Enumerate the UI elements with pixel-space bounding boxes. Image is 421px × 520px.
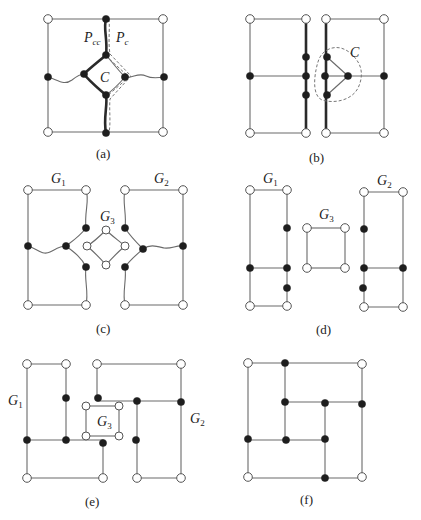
label-g3: G3: [100, 209, 115, 226]
caption-b: (b): [309, 150, 324, 165]
label-g3: G3: [97, 414, 112, 431]
filled-vertex: [321, 72, 328, 79]
open-vertex: [380, 129, 389, 138]
filled-vertex: [302, 72, 309, 79]
label-g3: G3: [319, 207, 334, 224]
filled-vertex: [246, 72, 253, 79]
open-vertex: [159, 128, 168, 137]
caption-c: (c): [96, 321, 110, 336]
caption-a: (a): [96, 146, 110, 161]
panel-b: C (b): [246, 15, 389, 165]
open-vertex: [380, 15, 389, 24]
filled-vertex: [302, 53, 309, 60]
open-vertex: [159, 15, 168, 24]
filled-vertex: [380, 72, 387, 79]
label-pcc: Pcc: [83, 30, 101, 47]
label-g2: G2: [154, 171, 169, 188]
open-vertex: [44, 128, 53, 137]
filled-vertex: [121, 73, 128, 80]
caption-e: (e): [85, 494, 99, 509]
filled-vertex: [160, 73, 167, 80]
label-pc: Pc: [115, 30, 129, 47]
label-cycle-c: C: [350, 45, 360, 60]
label-g1: G1: [263, 171, 278, 188]
filled-vertex: [102, 91, 109, 98]
caption-d: (d): [316, 322, 331, 337]
open-vertex: [302, 129, 311, 138]
filled-vertex: [102, 129, 109, 136]
open-vertex: [322, 15, 331, 24]
filled-vertex: [44, 73, 51, 80]
label-cycle-c: C: [100, 70, 110, 85]
panel-e: G1 G2 G3 (e): [8, 360, 205, 509]
filled-vertex: [102, 15, 109, 22]
filled-vertex: [102, 51, 109, 58]
panel-c: G1 G2 G3 (c): [24, 171, 188, 336]
filled-vertex: [80, 70, 87, 77]
panel-a: Pcc Pc C (a): [44, 15, 168, 161]
filled-vertex: [344, 72, 351, 79]
path-pcc: [105, 19, 106, 55]
filled-vertex: [323, 53, 330, 60]
label-g2: G2: [377, 173, 392, 190]
filled-vertex: [302, 91, 309, 98]
filled-vertex: [323, 91, 330, 98]
graph-figure: Pcc Pc C (a): [0, 0, 421, 520]
open-vertex: [246, 129, 255, 138]
label-g2: G2: [190, 411, 205, 428]
panel-d: G1 G2 G3 (d): [246, 171, 408, 337]
open-vertex: [246, 15, 255, 24]
open-vertex: [322, 129, 331, 138]
panel-f: (f): [244, 359, 367, 507]
open-vertex: [44, 15, 53, 24]
label-g1: G1: [51, 171, 66, 188]
label-g1: G1: [8, 393, 23, 410]
caption-f: (f): [300, 492, 313, 507]
open-vertex: [302, 15, 311, 24]
